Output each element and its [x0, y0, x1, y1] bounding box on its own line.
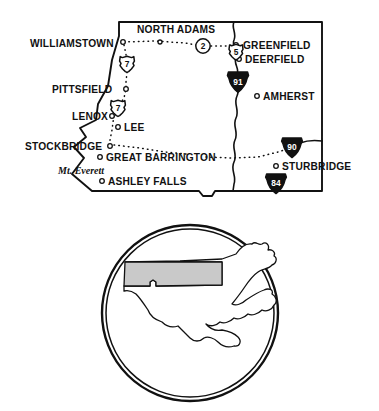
town-dot-williamstown[interactable]: [121, 40, 126, 45]
landmark-label-mt-everett: Mt. Everett: [57, 165, 105, 176]
route-shield-84-number: 84: [271, 178, 281, 188]
route-shield-2-number: 2: [201, 41, 206, 51]
town-dot-sturbridge[interactable]: [274, 164, 279, 169]
city-label-williamstown: WILLIAMSTOWN: [30, 38, 114, 49]
town-dot-great-barrington[interactable]: [98, 155, 103, 160]
city-label-greenfield: GREENFIELD: [243, 40, 311, 51]
route-shield-7-south-number: 7: [116, 103, 121, 113]
route-shield-91[interactable]: 91: [227, 72, 248, 92]
city-label-sturbridge: STURBRIDGE: [282, 161, 351, 172]
town-dot-lee[interactable]: [116, 125, 121, 130]
route-7-corridor-south: [110, 116, 114, 146]
main-map-group: WILLIAMSTOWN NORTH ADAMS GREENFIELD DEER…: [25, 22, 351, 196]
town-dot-north-adams[interactable]: [158, 40, 162, 44]
town-dot-lenox[interactable]: [110, 114, 115, 119]
route-shield-5-number: 5: [234, 47, 239, 57]
route-shield-91-number: 91: [233, 77, 243, 87]
massachusetts-outline: [124, 243, 276, 347]
town-dot-stockbridge[interactable]: [108, 144, 113, 149]
inset-locator-map: [102, 225, 278, 401]
route-shield-7-north-number: 7: [125, 59, 130, 69]
town-dot-amherst[interactable]: [255, 94, 260, 99]
city-label-great-barrington: GREAT BARRINGTON: [106, 152, 216, 163]
mass-pike-east-connector: [300, 140, 322, 143]
map-figure: WILLIAMSTOWN NORTH ADAMS GREENFIELD DEER…: [0, 0, 379, 411]
highlighted-western-ma-region: [124, 262, 222, 286]
route-shield-90[interactable]: 90: [282, 138, 303, 158]
mass-pike-corridor-east: [206, 149, 287, 158]
city-label-north-adams: NORTH ADAMS: [137, 24, 215, 35]
town-dot-ashley-falls[interactable]: [100, 179, 105, 184]
city-label-lee: LEE: [124, 122, 144, 133]
route-shield-90-number: 90: [287, 142, 297, 152]
city-label-deerfield: DEERFIELD: [245, 54, 305, 65]
town-dot-pittsfield[interactable]: [124, 87, 129, 92]
city-label-amherst: AMHERST: [263, 91, 315, 102]
route-shield-2[interactable]: 2: [196, 39, 210, 53]
city-label-pittsfield: PITTSFIELD: [52, 84, 112, 95]
city-label-ashley-falls: ASHLEY FALLS: [108, 176, 187, 187]
city-label-lenox: LENOX: [72, 111, 108, 122]
route-shield-7-north[interactable]: 7: [120, 56, 135, 72]
city-label-stockbridge: STOCKBRIDGE: [25, 141, 102, 152]
map-svg: WILLIAMSTOWN NORTH ADAMS GREENFIELD DEER…: [0, 0, 379, 411]
